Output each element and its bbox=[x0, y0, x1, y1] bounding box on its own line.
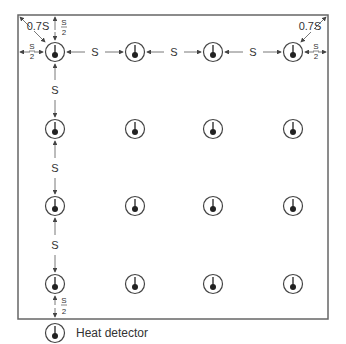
detector-grid bbox=[46, 43, 303, 294]
heat-detector-icon bbox=[126, 43, 145, 62]
heat-detector-icon bbox=[126, 197, 145, 216]
heat-detector-icon bbox=[46, 275, 65, 294]
heat-detector-icon bbox=[284, 197, 303, 216]
heat-detector-icon bbox=[284, 43, 303, 62]
svg-text:2: 2 bbox=[314, 52, 319, 61]
legend-heat-detector-icon bbox=[46, 324, 65, 343]
dimension-labels: S S S S S S 0.7S 0.7S bbox=[27, 20, 322, 251]
label-corner-right: 0.7S bbox=[299, 20, 322, 32]
heat-detector-icon bbox=[46, 43, 65, 62]
svg-text:2: 2 bbox=[62, 28, 67, 37]
label-corner-left: 0.7S bbox=[27, 20, 50, 32]
heat-detector-icon bbox=[46, 120, 65, 139]
svg-text:S: S bbox=[61, 18, 66, 27]
svg-text:S: S bbox=[313, 42, 318, 51]
label-s: S bbox=[51, 84, 58, 96]
heat-detector-icon bbox=[126, 275, 145, 294]
label-s: S bbox=[170, 46, 177, 58]
svg-text:S: S bbox=[29, 42, 34, 51]
heat-detector-icon bbox=[46, 197, 65, 216]
dimension-lines bbox=[20, 17, 326, 317]
half-spacing-labels: S2 S2 S2 S2 bbox=[29, 18, 319, 316]
label-s: S bbox=[91, 46, 98, 58]
room-boundary bbox=[18, 15, 328, 319]
heat-detector-icon bbox=[204, 120, 223, 139]
detector-layout-diagram: S S S S S S 0.7S 0.7S S2 S2 S2 S2 bbox=[0, 0, 346, 344]
label-s: S bbox=[51, 239, 58, 251]
heat-detector-icon bbox=[284, 275, 303, 294]
svg-text:2: 2 bbox=[30, 52, 35, 61]
heat-detector-icon bbox=[126, 120, 145, 139]
heat-detector-icon bbox=[204, 43, 223, 62]
svg-text:2: 2 bbox=[62, 307, 67, 316]
legend-label: Heat detector bbox=[76, 326, 148, 340]
heat-detector-icon bbox=[204, 197, 223, 216]
label-s: S bbox=[249, 46, 256, 58]
heat-detector-icon bbox=[284, 120, 303, 139]
heat-detector-icon bbox=[204, 275, 223, 294]
label-s: S bbox=[51, 162, 58, 174]
svg-text:S: S bbox=[61, 296, 66, 305]
